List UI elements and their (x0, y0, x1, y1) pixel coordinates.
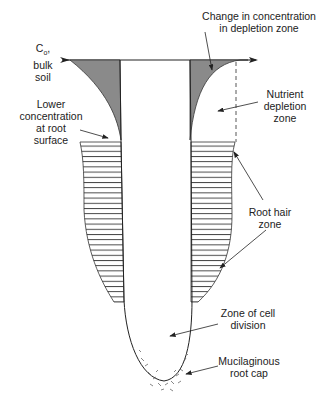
label-line: bulk (26, 59, 60, 71)
cell-division-label: Zone of cell division (214, 307, 282, 331)
label-part: , (47, 42, 50, 54)
right-root-hair-zone (191, 142, 235, 302)
label-line: Co, (26, 42, 60, 59)
label-line: depletion (258, 100, 312, 112)
label-line: surface (16, 134, 86, 146)
label-line: Root hair (240, 206, 300, 218)
label-line: in depletion zone (200, 22, 318, 34)
bulk-soil-label: Co, bulk soil (26, 42, 60, 83)
right-depletion-area (190, 60, 240, 140)
root-hair-zone-label: Root hair zone (240, 206, 300, 230)
label-line: at root (16, 122, 86, 134)
label-line: soil (26, 71, 60, 83)
left-root-hair-zone (80, 142, 124, 302)
label-line: Zone of cell (214, 307, 282, 319)
nutrient-depletion-label: Nutrient depletion zone (258, 88, 312, 124)
label-line: zone (258, 112, 312, 124)
label-line: Lower (16, 98, 86, 110)
label-line: concentration (16, 110, 86, 122)
label-line: Change in concentration (200, 10, 318, 22)
label-line: zone (240, 218, 300, 230)
change-concentration-label: Change in concentration in depletion zon… (200, 10, 318, 34)
label-line: Nutrient (258, 88, 312, 100)
label-line: Mucilaginous (208, 355, 290, 367)
lower-concentration-label: Lower concentration at root surface (16, 98, 86, 146)
label-line: root cap (208, 367, 290, 379)
label-line: division (214, 319, 282, 331)
root-cap-label: Mucilaginous root cap (208, 355, 290, 379)
